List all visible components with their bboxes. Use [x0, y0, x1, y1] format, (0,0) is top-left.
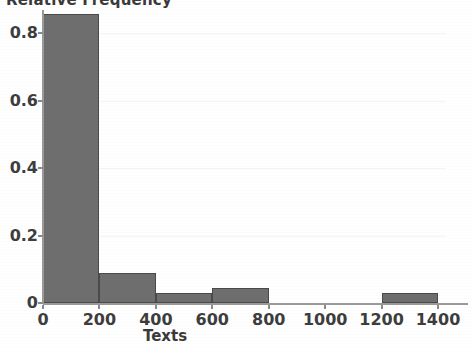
- x-axis-tick: [324, 305, 326, 309]
- x-axis-tick: [211, 305, 213, 309]
- histogram-figure: Relative Frequency 00.20.40.60.8 0200400…: [0, 0, 472, 347]
- y-axis-tick: [38, 167, 43, 169]
- y-axis-line: [42, 10, 44, 303]
- y-axis-tick: [38, 32, 43, 34]
- y-axis-tick-label: 0.2: [2, 226, 38, 245]
- x-axis-tick: [381, 305, 383, 309]
- x-axis-line: [43, 303, 468, 305]
- gridline: [43, 33, 446, 34]
- plot-area: [43, 10, 446, 303]
- gridline: [43, 168, 446, 169]
- histogram-bar: [99, 273, 155, 303]
- y-axis-tick-label: 0.6: [2, 91, 38, 110]
- gridline: [43, 101, 446, 102]
- y-axis-tick: [38, 100, 43, 102]
- x-axis-title: Texts: [0, 327, 330, 345]
- y-axis-tick: [38, 302, 43, 304]
- y-axis-title: Relative Frequency: [6, 0, 172, 9]
- x-axis-tick: [42, 305, 44, 309]
- histogram-bar: [212, 288, 268, 303]
- x-axis-tick-label: 1200: [357, 310, 407, 329]
- x-axis-tick: [155, 305, 157, 309]
- histogram-bar: [156, 293, 212, 303]
- y-axis-tick-label: 0.4: [2, 158, 38, 177]
- x-axis-tick: [98, 305, 100, 309]
- y-axis-tick-label: 0.8: [2, 23, 38, 42]
- x-axis-tick: [437, 305, 439, 309]
- x-axis-tick-label: 1400: [413, 310, 463, 329]
- y-axis-tick: [38, 235, 43, 237]
- histogram-bar: [43, 14, 99, 303]
- x-axis-tick: [268, 305, 270, 309]
- histogram-bar: [382, 293, 438, 303]
- gridline: [43, 236, 446, 237]
